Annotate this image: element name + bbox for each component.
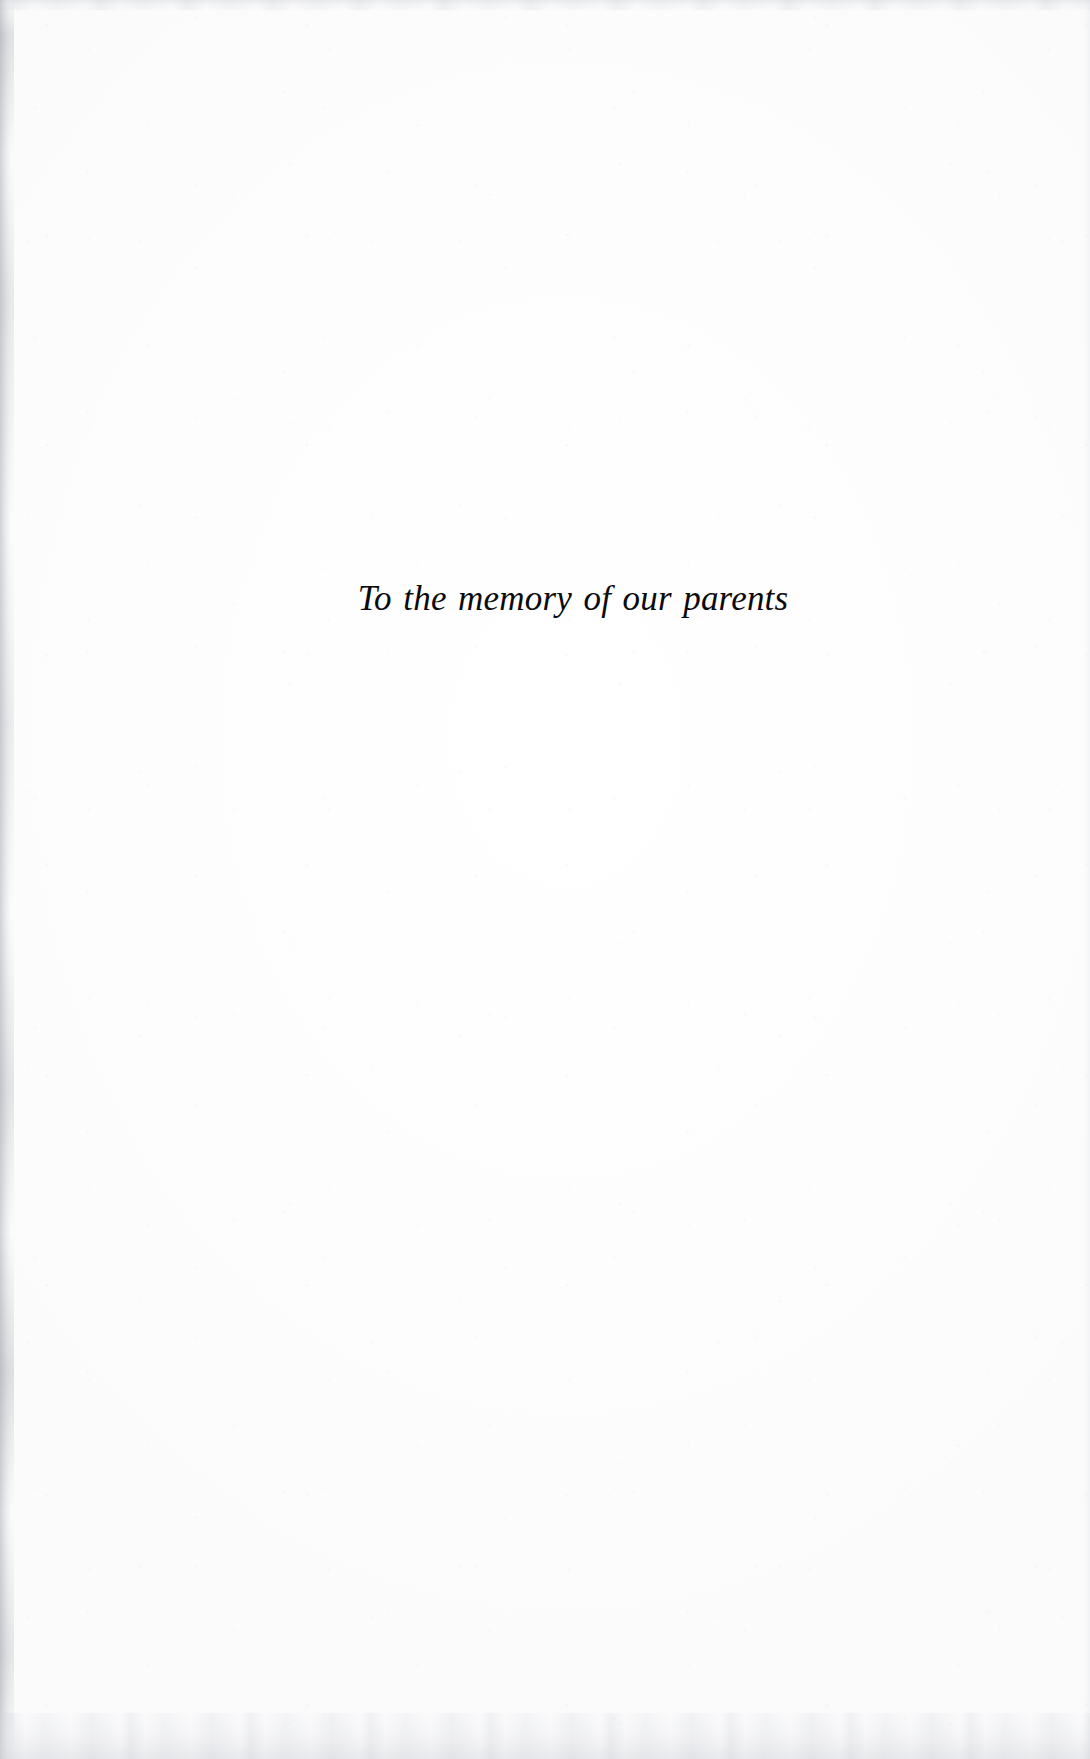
scan-right-edge-shadow [1080, 0, 1090, 1759]
paper-grain-texture [0, 0, 1090, 1759]
dedication-page: To the memory of our parents [0, 0, 1090, 1759]
dedication-block: To the memory of our parents [0, 576, 1090, 622]
scan-bottom-edge-speckle [0, 1713, 1090, 1759]
scan-left-edge-shadow-variation [0, 0, 14, 1759]
dedication-text: To the memory of our parents [358, 576, 789, 622]
scan-top-edge-speckle [0, 0, 1090, 10]
